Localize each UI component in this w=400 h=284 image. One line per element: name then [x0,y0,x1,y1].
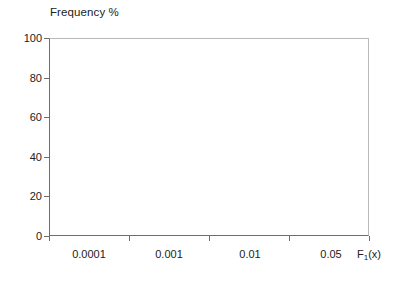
x-axis-tick-mark-2 [209,236,210,241]
chart-title: Frequency % [50,6,119,18]
x-axis-label: F1(x) [357,248,381,260]
y-axis-tick-mark-80 [44,78,50,79]
y-axis-tick-label-20: 20 [2,190,42,202]
bar-0 [60,155,118,236]
x-axis-label-base: F [357,248,364,260]
y-axis-tick-mark-20 [44,196,50,197]
x-axis-category-label-0: 0.0001 [72,248,106,260]
y-axis-tick-label-100: 100 [2,32,42,44]
x-axis-category-label-2: 0.01 [239,248,260,260]
y-axis-tick-label-40: 40 [2,151,42,163]
x-axis-label-subscript: 1 [364,253,368,262]
y-axis-tick-label-60: 60 [2,111,42,123]
y-axis-tick-mark-60 [44,117,50,118]
chart-figure: Frequency % 100 80 60 40 20 0 0.0001 0.0… [0,0,400,284]
x-axis-category-label-3: 0.05 [320,248,341,260]
x-axis-tick-mark-4 [369,236,370,241]
y-axis-tick-mark-40 [44,157,50,158]
y-axis-tick-label-0: 0 [2,230,42,242]
y-axis-tick-mark-100 [44,38,50,39]
x-axis-category-label-1: 0.001 [155,248,183,260]
x-axis-label-suffix: (x) [368,248,381,260]
x-axis-tick-mark-1 [129,236,130,241]
bar-1 [140,157,198,236]
y-axis-tick-label-80: 80 [2,72,42,84]
x-axis-tick-mark-0 [49,236,50,241]
bar-2 [221,216,279,236]
x-axis-tick-mark-3 [289,236,290,241]
bar-3 [302,216,360,236]
